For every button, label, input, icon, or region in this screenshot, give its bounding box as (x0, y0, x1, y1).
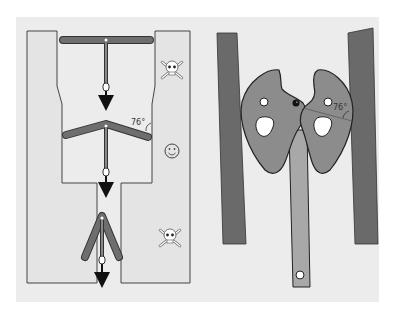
svg-text:76°: 76° (131, 118, 145, 127)
down-arrow-2 (103, 128, 109, 190)
handle-bar (289, 130, 310, 287)
right-cam-lobe (300, 70, 352, 173)
pivot-pin (293, 100, 300, 107)
diagram-canvas: 76° (0, 0, 397, 321)
svg-text:76°: 76° (333, 103, 347, 112)
right-pillar (348, 28, 378, 244)
flat-toggle-bar (63, 39, 150, 42)
left-pillar (217, 33, 246, 244)
down-arrow-1 (103, 43, 109, 103)
